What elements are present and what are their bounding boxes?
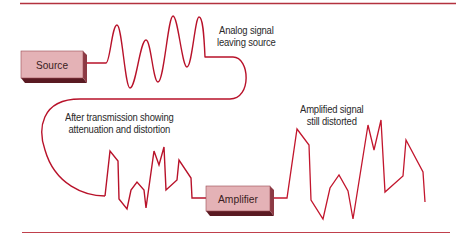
source-box: Source <box>21 51 87 83</box>
amplified-annotation-line2: still distorted <box>300 115 364 127</box>
transmission-annotation-line2: attenuation and distortion <box>65 123 174 135</box>
amplified-annotation: Amplified signal still distorted <box>300 103 364 127</box>
transmission-annotation-line1: After transmission showing <box>65 111 174 123</box>
amplified-annotation-line1: Amplified signal <box>300 103 364 115</box>
analog-signal-wave <box>42 16 246 196</box>
analog-annotation: Analog signal leaving source <box>217 24 276 48</box>
amplifier-box: Amplifier <box>206 186 274 216</box>
analog-annotation-line1: Analog signal <box>217 24 276 36</box>
amplified-signal-wave <box>274 120 425 219</box>
amplifier-label: Amplifier <box>218 193 258 205</box>
transmission-annotation: After transmission showing attenuation a… <box>65 111 174 135</box>
analog-annotation-line2: leaving source <box>217 36 276 48</box>
distorted-signal-wave <box>105 147 206 209</box>
signal-diagram: Source Amplifier Analog signal leaving s… <box>0 0 460 238</box>
source-label: Source <box>36 59 68 71</box>
